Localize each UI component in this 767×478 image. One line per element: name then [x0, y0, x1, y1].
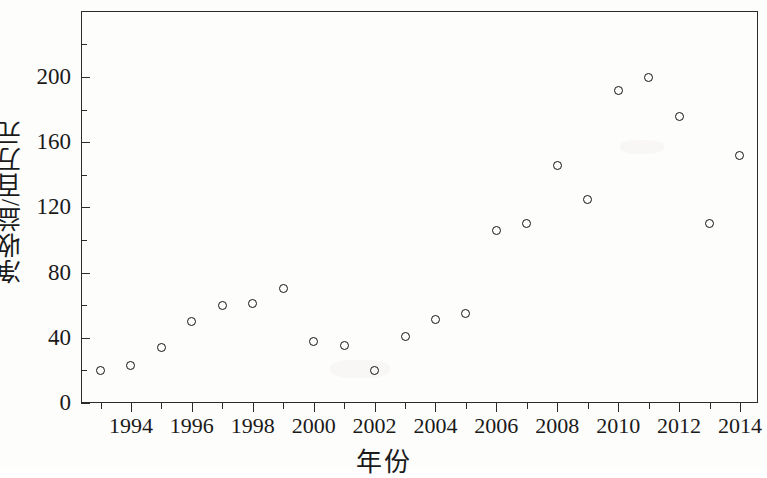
x-axis-tick — [435, 403, 436, 412]
data-point-marker — [644, 73, 653, 82]
data-point-marker — [96, 366, 105, 375]
x-axis-minor-tick — [527, 403, 528, 409]
data-point-marker — [583, 195, 592, 204]
data-point-marker — [370, 366, 379, 375]
data-point-marker — [340, 341, 349, 350]
x-axis-tick-label: 2004 — [400, 415, 470, 437]
y-axis-tick-label: 40 — [48, 326, 71, 349]
x-axis-title: 年份 — [0, 441, 767, 478]
x-axis-tick-label: 2010 — [583, 415, 653, 437]
y-axis-tick-label: 0 — [60, 391, 72, 414]
data-point-marker — [279, 284, 288, 293]
x-axis-minor-tick — [710, 403, 711, 409]
x-axis-tick-label: 2006 — [461, 415, 531, 437]
data-point-marker — [309, 337, 318, 346]
x-axis-tick-label: 2008 — [522, 415, 592, 437]
x-axis-tick — [314, 403, 315, 412]
data-point-marker — [157, 343, 166, 352]
x-axis-tick — [557, 403, 558, 412]
x-axis-tick-label: 1996 — [157, 415, 227, 437]
y-axis-tick-label: 200 — [37, 65, 72, 88]
y-axis-tick — [81, 403, 90, 404]
x-axis-tick — [131, 403, 132, 412]
x-axis-minor-tick — [344, 403, 345, 409]
y-axis-tick-label: 120 — [37, 195, 72, 218]
data-point-marker — [735, 151, 744, 160]
y-axis-tick-label: 80 — [48, 261, 71, 284]
data-point-marker — [187, 317, 196, 326]
x-axis-minor-tick — [649, 403, 650, 409]
x-axis-tick-label: 2000 — [279, 415, 349, 437]
data-point-marker — [248, 299, 257, 308]
data-point-marker — [218, 301, 227, 310]
x-axis-minor-tick — [466, 403, 467, 409]
x-axis-tick — [375, 403, 376, 412]
x-axis-tick — [192, 403, 193, 412]
x-axis-tick-label: 2014 — [705, 415, 767, 437]
data-point-marker — [614, 86, 623, 95]
data-point-marker — [522, 219, 531, 228]
x-axis-minor-tick — [222, 403, 223, 409]
data-point-marker — [492, 226, 501, 235]
data-point-marker — [705, 219, 714, 228]
y-axis-title: 净收益/百万元 — [0, 120, 34, 284]
plot-area — [81, 11, 758, 403]
x-axis-minor-tick — [588, 403, 589, 409]
x-axis-minor-tick — [405, 403, 406, 409]
x-axis-tick-label: 2012 — [644, 415, 714, 437]
data-point-marker — [126, 361, 135, 370]
data-point-marker — [461, 309, 470, 318]
x-axis-tick-label: 2002 — [340, 415, 410, 437]
x-axis-tick-label: 1998 — [218, 415, 288, 437]
x-axis-minor-tick — [283, 403, 284, 409]
data-point-marker — [431, 315, 440, 324]
data-point-marker — [553, 161, 562, 170]
data-point-marker — [675, 112, 684, 121]
data-point-marker — [401, 332, 410, 341]
x-axis-minor-tick — [101, 403, 102, 409]
x-axis-tick — [618, 403, 619, 412]
x-axis-tick — [679, 403, 680, 412]
x-axis-tick — [253, 403, 254, 412]
x-axis-minor-tick — [161, 403, 162, 409]
x-axis-tick-label: 1994 — [96, 415, 166, 437]
x-axis-tick — [740, 403, 741, 412]
x-axis-tick — [496, 403, 497, 412]
y-axis-tick-label: 160 — [37, 130, 72, 153]
